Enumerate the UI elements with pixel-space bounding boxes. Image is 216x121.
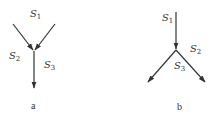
- label-a-s2: S2: [9, 50, 20, 63]
- label-a-s1: S1: [30, 8, 41, 21]
- diagram-b: S1 S2 S3 b: [148, 12, 205, 112]
- diagram-a: S1 S2 S3 a: [9, 8, 55, 111]
- label-b-s3: S3: [174, 60, 185, 73]
- flow-diagrams: S1 S2 S3 a S1 S2 S3 b: [0, 0, 216, 121]
- label-a-s3: S3: [44, 59, 55, 72]
- stream-a-right-inflow: [35, 24, 55, 50]
- label-b-s1: S1: [162, 12, 173, 25]
- stream-a-left-inflow: [13, 24, 33, 50]
- stream-b-left-outflow: [148, 50, 176, 82]
- caption-b: b: [177, 101, 182, 112]
- label-b-s2: S2: [190, 43, 201, 56]
- caption-a: a: [31, 100, 36, 111]
